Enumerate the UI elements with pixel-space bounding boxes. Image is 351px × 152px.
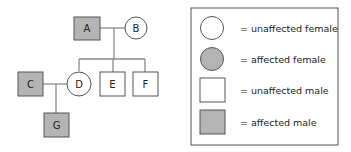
individual-b: B <box>125 17 147 39</box>
legend-label: = unaffected female <box>240 23 338 34</box>
unaffected-male-icon <box>200 78 225 102</box>
individual-label: E <box>109 79 115 90</box>
individual-d: D <box>67 72 91 96</box>
pedigree-diagram: A B C D E F G = unaffected female = affe… <box>0 0 351 152</box>
legend-label: = affected female <box>240 54 326 65</box>
affected-male-icon <box>200 110 225 134</box>
individual-c: C <box>18 72 43 96</box>
individual-label: G <box>53 120 61 131</box>
unaffected-female-icon <box>201 17 224 40</box>
individual-a: A <box>74 17 100 40</box>
individual-label: A <box>84 23 91 34</box>
individual-label: D <box>75 79 83 90</box>
individual-g: G <box>44 113 69 137</box>
individual-label: F <box>143 79 149 90</box>
pedigree-lines <box>43 28 145 113</box>
legend-label: = affected male <box>240 117 317 128</box>
individual-f: F <box>133 72 158 96</box>
individual-label: B <box>133 23 140 34</box>
individual-label: C <box>27 79 34 90</box>
individual-e: E <box>100 72 125 96</box>
affected-female-icon <box>201 48 224 71</box>
legend-label: = unaffected male <box>240 85 329 96</box>
legend: = unaffected female = affected female = … <box>191 8 338 145</box>
